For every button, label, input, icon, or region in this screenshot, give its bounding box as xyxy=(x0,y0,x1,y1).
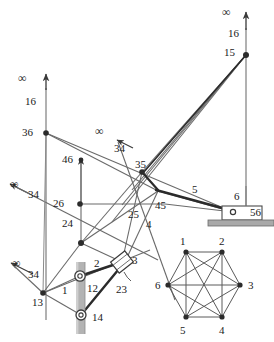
label-13: 13 xyxy=(32,297,43,308)
joint-56 xyxy=(230,209,235,214)
diagram-canvas: ∞ 16 36 46 ∞ 34 35 ∞ 34 26 24 5 45 25 4 … xyxy=(0,0,274,342)
slider-block-23 xyxy=(111,251,134,273)
label-infinity-top-left: ∞ xyxy=(18,73,27,84)
joint-12 xyxy=(75,271,85,281)
label-26: 26 xyxy=(53,198,64,209)
label-14: 14 xyxy=(92,312,103,323)
k6-vertex-label: 3 xyxy=(248,280,254,291)
label-45: 45 xyxy=(155,200,166,211)
label-infinity-top-right: ∞ xyxy=(222,7,231,18)
k6-vertex xyxy=(183,249,188,254)
label-24: 24 xyxy=(62,218,73,229)
label-infinity-upper-mid: ∞ xyxy=(95,126,104,137)
k6-vertex-label: 5 xyxy=(180,325,186,336)
label-36: 36 xyxy=(22,127,33,138)
k6-vertex xyxy=(165,282,170,287)
label-infinity-mid-left: ∞ xyxy=(10,179,19,190)
slider-leader-23 xyxy=(124,272,131,281)
label-23: 23 xyxy=(116,284,127,295)
label-5: 5 xyxy=(192,184,198,195)
k6-vertex xyxy=(237,282,242,287)
label-1: 1 xyxy=(62,285,68,296)
label-46: 46 xyxy=(62,154,73,165)
k6-vertex-label: 1 xyxy=(180,236,186,247)
k6-vertex-label: 2 xyxy=(219,236,225,247)
label-3: 3 xyxy=(132,255,138,266)
k6-vertex-label: 4 xyxy=(219,325,225,336)
label-6: 6 xyxy=(234,191,240,202)
k6-vertex xyxy=(219,249,224,254)
k6-complete-graph xyxy=(165,249,242,319)
label-25: 25 xyxy=(128,209,139,220)
k6-vertex xyxy=(183,314,188,319)
link-lines-thick xyxy=(80,55,246,315)
label-34-mid-left: 34 xyxy=(28,189,39,200)
label-15: 15 xyxy=(224,47,235,58)
k6-vertex xyxy=(219,314,224,319)
k6-vertex-label: 6 xyxy=(155,280,161,291)
joint-14 xyxy=(76,310,86,320)
label-35: 35 xyxy=(135,159,146,170)
label-12: 12 xyxy=(87,283,98,294)
label-34-upper-mid: 34 xyxy=(114,143,125,154)
label-2: 2 xyxy=(94,258,100,269)
label-16-right: 16 xyxy=(228,28,239,39)
label-56: 56 xyxy=(250,207,261,218)
label-infinity-low-left: ∞ xyxy=(12,258,21,269)
label-4: 4 xyxy=(146,219,152,230)
label-16-left: 16 xyxy=(25,96,36,107)
label-34-low-left: 34 xyxy=(28,269,39,280)
